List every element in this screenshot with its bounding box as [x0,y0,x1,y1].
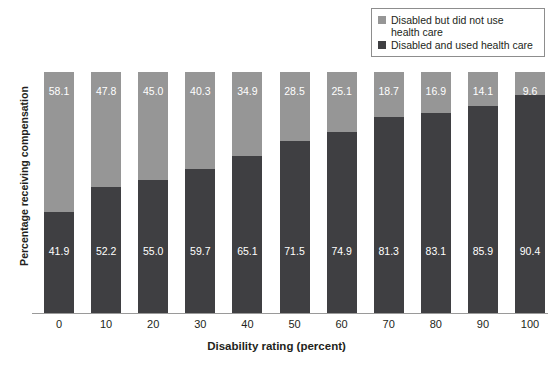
bar-group: 14.185.9 [468,72,498,313]
bar-group: 34.965.1 [232,72,262,313]
x-tick-label: 80 [413,318,459,330]
legend-label: Disabled but did not use health care [391,14,504,38]
chart-legend: Disabled but did not use health care Dis… [371,8,545,57]
bar-group: 9.690.4 [515,72,545,313]
bar-group: 16.983.1 [421,72,451,313]
bar-segment-not-used: 28.5 [280,72,310,141]
bar-value-label: 41.9 [44,246,74,257]
bar-group: 45.055.0 [138,72,168,313]
bar-segment-used: 71.5 [280,141,310,313]
bar-value-label: 59.7 [185,246,215,257]
y-axis-title: Percentage receiving compensation [18,66,30,286]
bar-value-label: 40.3 [185,86,215,97]
stacked-bar-chart: Disabled but did not use health care Dis… [0,0,553,365]
legend-label: Disabled and used health care [391,39,533,51]
bar-value-label: 25.1 [327,86,357,97]
bar-segment-not-used: 25.1 [327,72,357,132]
bar-value-label: 52.2 [91,246,121,257]
bar-value-label: 47.8 [91,86,121,97]
bar-value-label: 71.5 [280,246,310,257]
bar-value-label: 85.9 [468,246,498,257]
bar-segment-used: 52.2 [91,187,121,313]
legend-swatch-dark-icon [378,41,386,49]
bar-segment-used: 65.1 [232,156,262,313]
bar-group: 18.781.3 [374,72,404,313]
bar-value-label: 45.0 [138,86,168,97]
x-tick-label: 50 [272,318,318,330]
bar-value-label: 18.7 [374,86,404,97]
bar-segment-used: 85.9 [468,106,498,313]
x-tick-label: 60 [319,318,365,330]
x-axis-line [32,313,548,314]
bar-group: 40.359.7 [185,72,215,313]
legend-item-disabled-used: Disabled and used health care [378,39,538,51]
bar-group: 58.141.9 [44,72,74,313]
bar-value-label: 14.1 [468,86,498,97]
bar-segment-not-used: 9.6 [515,72,545,95]
bar-segment-used: 55.0 [138,180,168,313]
bar-segment-used: 41.9 [44,212,74,313]
bar-value-label: 90.4 [515,246,545,257]
bar-segment-not-used: 14.1 [468,72,498,106]
bar-segment-used: 90.4 [515,95,545,313]
bar-value-label: 74.9 [327,246,357,257]
bar-value-label: 58.1 [44,86,74,97]
bar-value-label: 65.1 [232,246,262,257]
plot-area: 58.141.947.852.245.055.040.359.734.965.1… [44,72,545,313]
legend-item-disabled-not-used: Disabled but did not use health care [378,14,538,38]
bar-segment-not-used: 40.3 [185,72,215,169]
bar-segment-not-used: 45.0 [138,72,168,180]
bar-segment-used: 81.3 [374,117,404,313]
bar-segment-used: 59.7 [185,169,215,313]
bar-segment-not-used: 34.9 [232,72,262,156]
bar-value-label: 28.5 [280,86,310,97]
bar-group: 47.852.2 [91,72,121,313]
x-tick-label: 20 [130,318,176,330]
bar-segment-not-used: 47.8 [91,72,121,187]
bar-value-label: 81.3 [374,246,404,257]
x-tick-label: 90 [460,318,506,330]
bar-group: 28.571.5 [280,72,310,313]
bar-value-label: 55.0 [138,246,168,257]
bar-segment-used: 74.9 [327,132,357,313]
x-tick-label: 40 [224,318,270,330]
x-tick-label: 0 [36,318,82,330]
x-tick-label: 30 [177,318,223,330]
bar-segment-not-used: 16.9 [421,72,451,113]
bar-segment-not-used: 58.1 [44,72,74,212]
bar-segment-used: 83.1 [421,113,451,313]
bar-value-label: 16.9 [421,86,451,97]
legend-swatch-light-icon [378,16,386,24]
bar-segment-not-used: 18.7 [374,72,404,117]
x-tick-label: 70 [366,318,412,330]
x-tick-label: 10 [83,318,129,330]
bar-value-label: 83.1 [421,246,451,257]
bar-value-label: 34.9 [232,86,262,97]
x-tick-label: 100 [507,318,553,330]
bar-group: 25.174.9 [327,72,357,313]
x-axis-title: Disability rating (percent) [0,340,553,352]
